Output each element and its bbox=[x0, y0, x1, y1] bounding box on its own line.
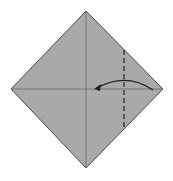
paper-diamond bbox=[11, 11, 163, 168]
origami-diagram bbox=[0, 0, 173, 181]
